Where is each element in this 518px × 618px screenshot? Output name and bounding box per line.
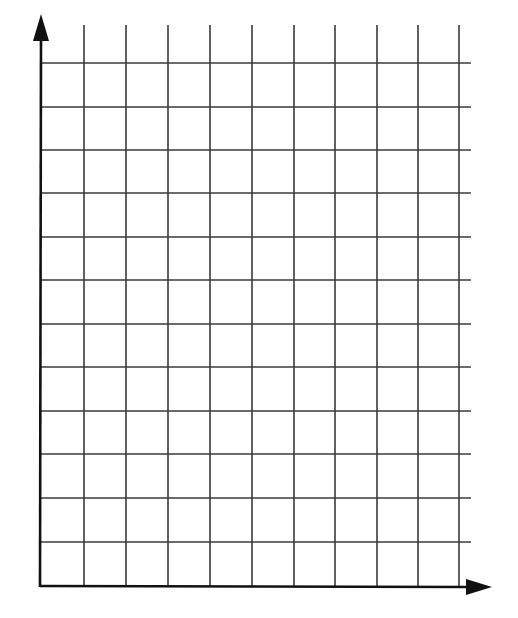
grid-diagram (0, 0, 518, 618)
x-axis-arrow-icon (466, 579, 492, 595)
graph-paper (0, 0, 518, 618)
axes (33, 14, 492, 595)
y-axis (40, 38, 41, 587)
x-axis (40, 586, 468, 587)
grid-lines (41, 25, 471, 586)
y-axis-arrow-icon (33, 14, 49, 41)
